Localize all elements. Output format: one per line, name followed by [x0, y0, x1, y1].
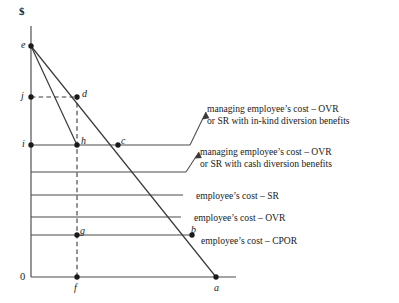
point-marker-f [74, 274, 79, 279]
point-label-i: i [22, 139, 25, 149]
annotation-employee-ovr: employee’s cost – OVR [194, 212, 285, 224]
origin-label: 0 [20, 272, 25, 283]
annotation-managing-ovr-inkind: managing employee’s cost – OVR or SR wit… [207, 103, 350, 126]
point-marker-c [115, 142, 120, 147]
point-label-c: c [121, 136, 125, 146]
point-label-d: d [82, 89, 87, 99]
point-label-a: a [214, 283, 219, 293]
annotation-managing-ovr-inkind-line1: managing employee’s cost – OVR [207, 103, 350, 115]
cost-schedule-lines [31, 46, 216, 277]
point-label-b: b [191, 225, 196, 235]
point-marker-h [74, 142, 79, 147]
point-label-g: g [80, 226, 85, 236]
annotation-employee-cpor-line1: employee’s cost – CPOR [201, 235, 297, 247]
point-label-e: e [21, 40, 25, 50]
annotation-managing-ovr-inkind-line2: or SR with in-kind diversion benefits [207, 115, 350, 127]
point-label-h: h [81, 136, 86, 146]
point-label-f: f [74, 283, 77, 293]
point-marker-g [74, 232, 79, 237]
construction-lines [31, 97, 77, 277]
annotation-employee-sr-line1: employee’s cost – SR [196, 190, 279, 202]
point-marker-i [28, 142, 33, 147]
point-label-j: j [21, 91, 24, 101]
point-marker-d [74, 94, 79, 99]
shallow-line-e-through-d-c-b-to-a [31, 46, 216, 277]
annotation-managing-ovr-cash-line1: managing employee’s cost – OVR [200, 146, 332, 158]
annotation-employee-ovr-line1: employee’s cost – OVR [194, 212, 285, 224]
point-marker-a [213, 274, 218, 279]
horizontal-cost-lines [31, 145, 192, 235]
point-marker-j [28, 94, 33, 99]
annotation-employee-sr: employee’s cost – SR [196, 190, 279, 202]
point-marker-e [28, 43, 33, 48]
y-axis-dollar-label: $ [19, 6, 25, 17]
annotation-managing-ovr-cash: managing employee’s cost – OVR or SR wit… [200, 146, 332, 169]
annotation-employee-cpor: employee’s cost – CPOR [201, 235, 297, 247]
economics-cost-diagram: $ 0 e j d i h c g b f a managing employe… [0, 0, 399, 303]
annotation-managing-ovr-cash-line2: or SR with cash diversion benefits [200, 158, 332, 170]
